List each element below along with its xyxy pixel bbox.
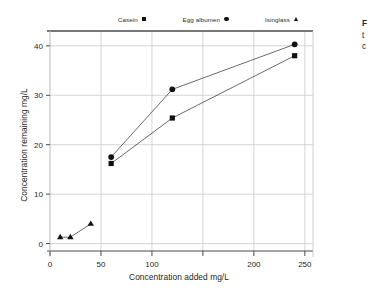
svg-text:40: 40	[34, 42, 43, 51]
data-series-layer	[57, 41, 298, 239]
svg-text:50: 50	[97, 260, 106, 269]
svg-text:200: 200	[247, 260, 261, 269]
axis-ticks	[46, 46, 305, 256]
axis-lines	[47, 31, 313, 257]
svg-text:30: 30	[34, 91, 43, 100]
svg-text:0: 0	[48, 260, 53, 269]
svg-text:0: 0	[39, 240, 44, 249]
side-body-text: F t c	[362, 18, 379, 53]
plot-area: 010203040050100200250	[0, 0, 379, 296]
svg-text:100: 100	[145, 260, 159, 269]
side-text-line-1: F	[362, 18, 379, 30]
chart-figure: Casein Egg albumen Isinglass Concentrati…	[0, 0, 379, 296]
gridlines	[50, 31, 313, 251]
svg-text:10: 10	[34, 190, 43, 199]
side-text-line-3: c	[362, 41, 379, 53]
side-text-line-2: t	[362, 30, 379, 42]
svg-text:250: 250	[298, 260, 312, 269]
svg-text:20: 20	[34, 141, 43, 150]
axis-tick-labels: 010203040050100200250	[34, 42, 312, 269]
